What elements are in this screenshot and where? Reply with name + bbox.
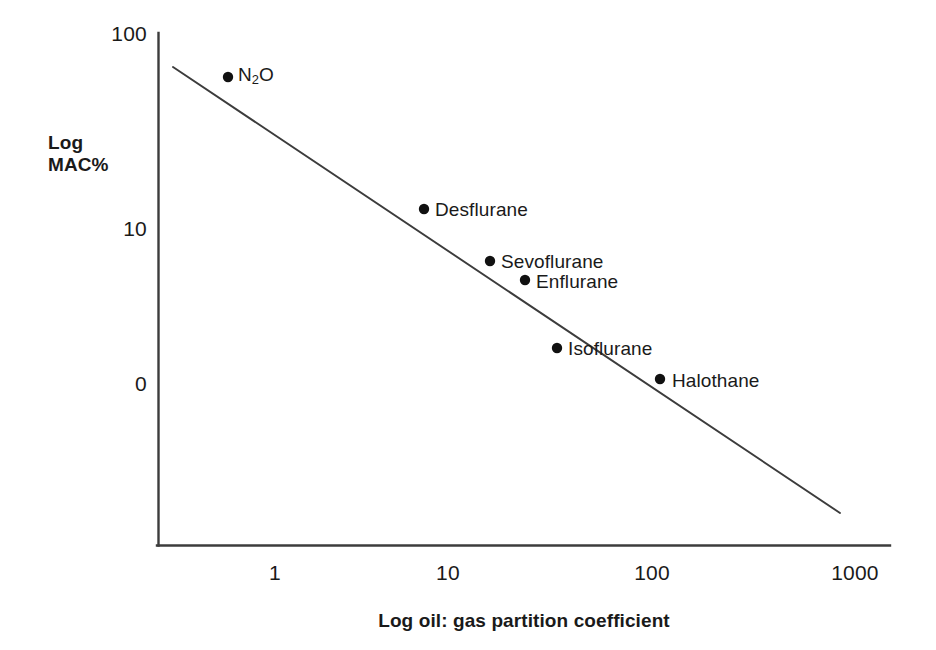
figure-canvas: 100 10 0 1 10 100 1000 Log MAC% Log oil:… (0, 0, 936, 650)
data-label-n2o: N2O (238, 65, 274, 87)
data-label-enflurane: Enflurane (536, 272, 618, 291)
data-point-marker (520, 275, 530, 285)
data-point-marker (419, 204, 429, 214)
y-axis-title: Log MAC% (48, 132, 109, 177)
data-point-marker (223, 72, 233, 82)
data-point-marker (552, 343, 562, 353)
data-point-marker (485, 256, 495, 266)
y-tick-label-10: 10 (123, 218, 147, 239)
y-tick-label-100: 100 (111, 23, 147, 44)
x-tick-label-100: 100 (634, 562, 670, 583)
y-axis-title-line2: MAC% (48, 154, 109, 176)
x-tick-label-1: 1 (269, 562, 281, 583)
y-tick-label-0: 0 (135, 373, 147, 394)
x-tick-label-10: 10 (436, 562, 460, 583)
y-axis-title-line1: Log (48, 132, 109, 154)
data-point-marker (655, 374, 665, 384)
trend-line (173, 67, 840, 513)
data-label-halothane: Halothane (672, 371, 760, 390)
data-label-desflurane: Desflurane (435, 200, 528, 219)
data-label-n2o-text: N2O (238, 64, 274, 85)
chart-plot-area (0, 0, 936, 650)
x-tick-label-1000: 1000 (831, 562, 879, 583)
data-label-sevoflurane: Sevoflurane (501, 252, 604, 271)
x-axis-title: Log oil: gas partition coefficient (378, 611, 670, 630)
data-label-isoflurane: Isoflurane (568, 339, 652, 358)
